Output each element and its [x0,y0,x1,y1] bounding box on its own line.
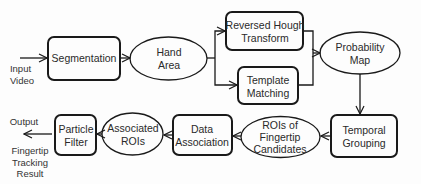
node-label: ROIs [107,134,158,147]
node-label: Associated [107,122,158,135]
node-reversed-hough: Reversed Hough Transform [226,19,305,44]
node-label: Segmentation [52,52,117,65]
node-label: Area [156,58,181,71]
node-associated-rois: Associated ROIs [107,122,158,147]
node-segmentation: Segmentation [52,52,117,65]
node-label: Fingertip [253,131,306,143]
node-label: Candidates [253,143,306,155]
output-result-label: Fingertip Tracking Result [12,145,49,180]
output-result-line: Result [12,168,49,180]
diagram-canvas [0,0,421,184]
edge-hand-area-reversed-hough [215,31,225,58]
node-label: Association [175,135,229,148]
input-label-line: Video [10,74,34,86]
node-label: Map [335,53,384,66]
edge-reversed-hough-merge [303,31,313,53]
node-label: Transform [226,31,305,44]
node-label: Probability [335,41,384,54]
edge-hand-area-template-matching [215,58,237,85]
node-label: Particle [58,123,93,136]
node-hand-area: Hand Area [156,46,181,71]
node-label: Temporal [342,124,385,137]
node-rois-candidates: ROIs of Fingertip Candidates [253,119,306,155]
node-label: Template [247,74,290,87]
output-result-line: Fingertip [12,145,49,157]
edge-template-matching-merge [298,53,313,85]
input-label-line: Input [10,63,34,75]
output-label: Output [10,116,39,128]
node-label: ROIs of [253,119,306,131]
node-probability-map: Probability Map [335,41,384,66]
node-label: Data [175,123,229,136]
output-label-text: Output [10,116,39,128]
node-data-association: Data Association [175,123,229,148]
flow-diagram: Input Video Segmentation Hand Area Rever… [0,0,421,184]
node-template-matching: Template Matching [247,74,290,99]
node-label: Reversed Hough [226,19,305,32]
node-label: Hand [156,46,181,59]
node-label: Filter [58,135,93,148]
output-result-line: Tracking [12,156,49,168]
node-label: Matching [247,86,290,99]
node-temporal-grouping: Temporal Grouping [342,124,385,149]
node-label: Grouping [342,136,385,149]
input-label: Input Video [10,63,34,86]
node-particle-filter: Particle Filter [58,123,93,148]
